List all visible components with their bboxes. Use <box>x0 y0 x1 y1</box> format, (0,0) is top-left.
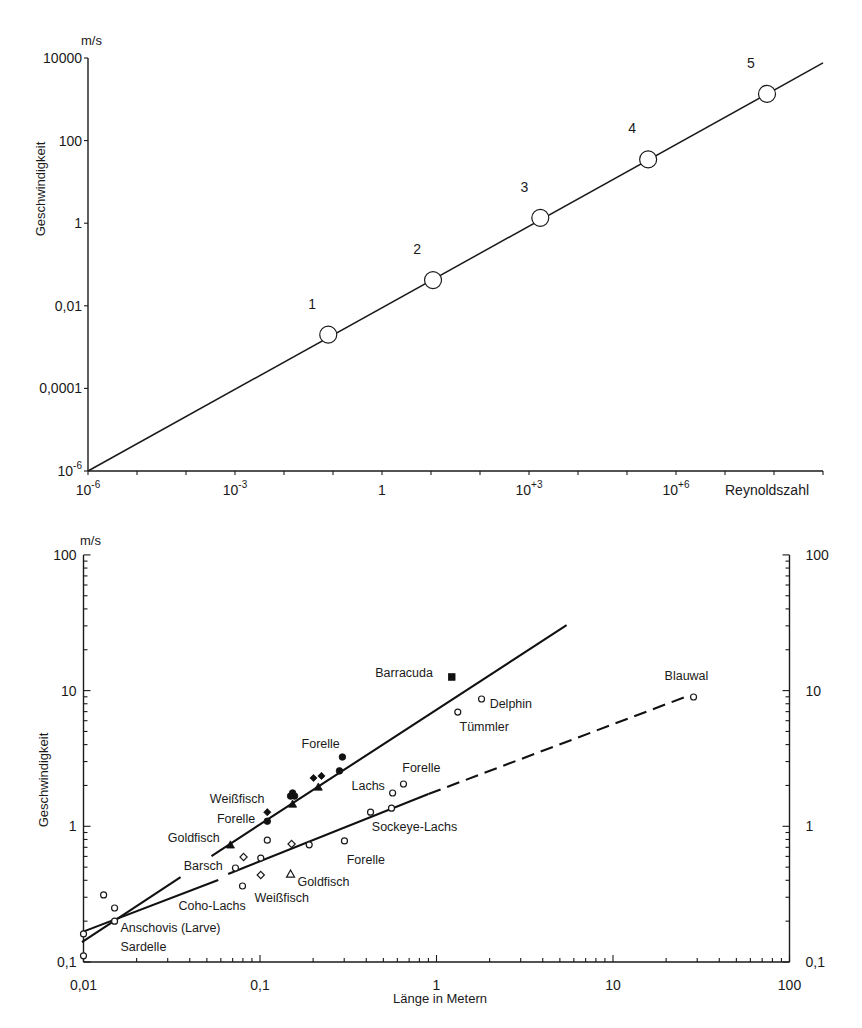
open-circle-marker <box>341 838 347 844</box>
open-circle-marker <box>258 855 264 861</box>
open-circle-marker <box>81 931 87 937</box>
species-label: Goldfisch <box>168 831 220 845</box>
y-tick-label: 0,01 <box>55 298 82 314</box>
background <box>0 0 862 1028</box>
y-tick-label-right: 0,1 <box>806 954 826 970</box>
species-label: Forelle <box>217 812 255 826</box>
marker-number: 5 <box>747 55 755 71</box>
y-tick-label: 0,0001 <box>39 380 82 396</box>
marker-circle <box>532 209 549 226</box>
species-label: Blauwal <box>665 669 709 683</box>
species-label: Weißfisch <box>210 792 265 806</box>
species-label: Lachs <box>352 779 385 793</box>
bottom-y-unit: m/s <box>80 533 101 548</box>
open-circle-marker <box>306 842 312 848</box>
species-label: Forelle <box>402 761 440 775</box>
species-label: Forelle <box>302 737 340 751</box>
open-circle-marker <box>112 918 118 924</box>
x-tick-label: 1 <box>433 977 441 993</box>
top-x-axis-title: Reynoldszahl <box>725 482 809 498</box>
open-circle-marker <box>240 883 246 889</box>
y-tick-label-left: 10 <box>61 683 77 699</box>
open-circle-marker <box>400 781 406 787</box>
marker-circle <box>425 272 442 289</box>
species-label: Sardelle <box>120 940 166 954</box>
open-circle-marker <box>264 837 270 843</box>
open-circle-marker <box>368 809 374 815</box>
species-label: Forelle <box>347 853 385 867</box>
y-tick-label: 10000 <box>43 50 82 66</box>
species-label: Barracuda <box>375 666 433 680</box>
x-tick-label: 100 <box>778 977 802 993</box>
species-label: Anschovis (Larve) <box>120 921 220 935</box>
y-tick-label-left: 1 <box>69 818 77 834</box>
species-label: Sockeye-Lachs <box>372 820 457 834</box>
marker-circle <box>640 151 657 168</box>
y-tick-label-right: 1 <box>806 818 814 834</box>
open-circle-marker <box>390 790 396 796</box>
open-circle-marker <box>81 953 87 959</box>
species-label: Tümmler <box>460 720 509 734</box>
marker-number: 4 <box>628 120 636 136</box>
top-y-unit: m/s <box>81 33 102 48</box>
bottom-y-axis-title: Geschwindigkeit <box>36 732 51 827</box>
marker-number: 1 <box>308 296 316 312</box>
species-label: Goldfisch <box>297 875 349 889</box>
open-circle-marker <box>455 709 461 715</box>
open-circle-marker <box>112 905 118 911</box>
y-tick-label: 1 <box>74 215 82 231</box>
top-y-axis-title: Geschwindigkeit <box>33 141 48 236</box>
marker-number: 2 <box>413 241 421 257</box>
figure: m/s Geschwindigkeit Reynoldszahl 10-610-… <box>0 0 862 1028</box>
open-circle-marker <box>232 865 238 871</box>
species-label: Barsch <box>184 859 223 873</box>
marker-number: 3 <box>520 179 528 195</box>
x-tick-label: 0,01 <box>70 977 97 993</box>
filled-square-marker <box>448 674 455 681</box>
open-circle-marker <box>479 696 485 702</box>
y-tick-label: 100 <box>59 133 83 149</box>
marker-circle <box>320 326 337 343</box>
y-tick-label-left: 0,1 <box>57 954 77 970</box>
open-circle-marker <box>389 805 395 811</box>
filled-circle-marker <box>291 793 298 800</box>
filled-circle-marker <box>336 768 343 775</box>
filled-circle-marker <box>339 754 346 761</box>
x-tick-label: 10 <box>605 977 621 993</box>
open-circle-marker <box>691 694 697 700</box>
y-tick-label-right: 100 <box>806 547 830 563</box>
y-tick-label-left: 100 <box>53 547 77 563</box>
species-label: Coho-Lachs <box>178 899 245 913</box>
bottom-x-axis-title: Länge in Metern <box>393 991 487 1006</box>
marker-circle <box>759 85 776 102</box>
filled-circle-marker <box>264 818 271 825</box>
x-tick-label: 1 <box>378 482 386 498</box>
open-circle-marker <box>101 892 107 898</box>
species-label: Weißfisch <box>254 891 309 905</box>
species-label: Delphin <box>490 697 532 711</box>
y-tick-label-right: 10 <box>806 683 822 699</box>
x-tick-label: 0,1 <box>250 977 270 993</box>
